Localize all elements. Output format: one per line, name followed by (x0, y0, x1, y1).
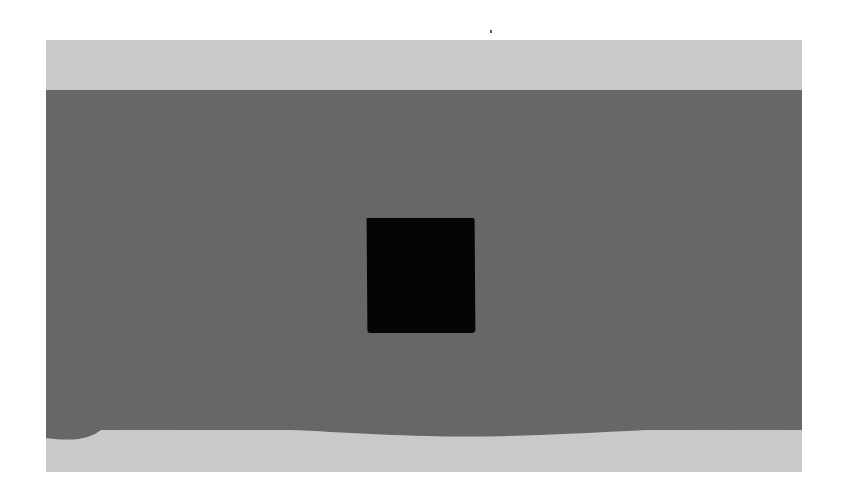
black-square (367, 218, 476, 333)
band-lower-edge (46, 424, 802, 448)
paper-speck (490, 30, 492, 33)
painting-canvas (46, 40, 802, 472)
